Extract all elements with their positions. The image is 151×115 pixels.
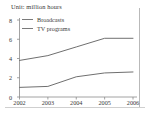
x-axis-tick-label: 2005: [94, 99, 116, 106]
y-axis-tick-label: 2: [3, 74, 12, 81]
x-axis-tick-label: 2006: [122, 99, 144, 106]
x-axis-tick-label: 2003: [37, 99, 59, 106]
x-axis-tick-label: 2002: [9, 99, 31, 106]
chart-figure: Unit: million hours Broadcasts TV progra…: [0, 0, 151, 115]
series-line-tv-programs: [20, 72, 134, 87]
y-axis-tick-label: 6: [3, 36, 12, 43]
y-axis-tick-label: 8: [3, 17, 12, 24]
plot-svg: [0, 0, 151, 115]
series-line-broadcasts: [20, 38, 134, 60]
plot-area: 02468 20022003200420052006: [0, 0, 151, 115]
x-axis-tick-label: 2004: [65, 99, 87, 106]
y-axis-tick-label: 4: [3, 55, 12, 62]
series-group: [20, 38, 134, 87]
